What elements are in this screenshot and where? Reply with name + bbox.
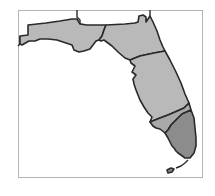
florida-region-map bbox=[0, 0, 215, 196]
keys-chain bbox=[176, 160, 188, 168]
region-keys[interactable] bbox=[167, 168, 174, 173]
region-panhandle[interactable] bbox=[20, 19, 106, 52]
